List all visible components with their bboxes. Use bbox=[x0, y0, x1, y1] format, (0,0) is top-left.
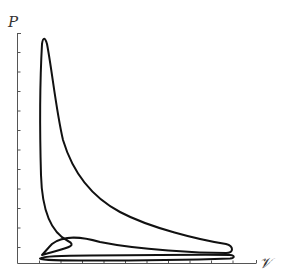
pv-diagram-chart: P 𝒱 bbox=[0, 0, 285, 280]
pumping-loop-curve bbox=[40, 255, 234, 261]
x-axis-label: 𝒱 bbox=[259, 254, 276, 272]
power-loop-curve bbox=[40, 39, 232, 255]
y-axis-label: P bbox=[7, 13, 19, 31]
